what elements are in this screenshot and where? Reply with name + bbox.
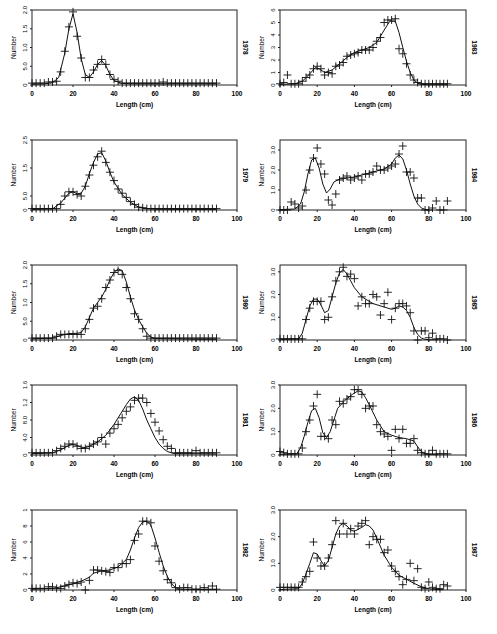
plot-frame (280, 510, 466, 590)
x-tick-label: 60 (388, 595, 396, 602)
x-axis-label: Length (cm) (354, 606, 391, 614)
cross-marker (440, 581, 448, 589)
cross-marker (313, 554, 321, 562)
y-tick-label: 0 (270, 588, 276, 592)
x-tick-label: 20 (314, 595, 322, 602)
cross-marker (406, 559, 414, 567)
x-tick-label: 80 (425, 595, 433, 602)
cross-marker (399, 581, 407, 589)
y-tick-label: 2.0 (270, 532, 276, 541)
cross-marker (410, 577, 418, 585)
y-tick-label: 3.0 (270, 505, 276, 514)
year-label: 1987 (471, 543, 478, 558)
cross-marker (414, 565, 422, 573)
cross-marker (302, 573, 310, 581)
cross-marker (309, 538, 317, 546)
fitted-curve (280, 523, 444, 589)
cross-marker (328, 541, 336, 549)
cross-marker (421, 585, 429, 593)
x-tick-label: 0 (278, 595, 282, 602)
cross-marker (376, 535, 384, 543)
observed-markers (276, 517, 451, 593)
x-tick-label: 40 (351, 595, 359, 602)
cross-marker (365, 541, 373, 549)
cross-marker (321, 562, 329, 570)
cross-marker (343, 530, 351, 538)
cross-marker (436, 585, 444, 593)
x-tick-label: 100 (461, 595, 472, 602)
y-tick-label: 1.0 (270, 559, 276, 568)
y-axis-label: Number (258, 538, 265, 562)
cross-marker (443, 582, 451, 590)
cross-marker (298, 578, 306, 586)
cross-marker (324, 554, 332, 562)
cross-marker (402, 575, 410, 583)
cross-marker (350, 530, 358, 538)
cross-marker (425, 578, 433, 586)
cross-marker (339, 519, 347, 527)
chart-svg-1987: 02040608010001.02.03.0Number1987Length (… (0, 0, 497, 634)
cross-marker (395, 573, 403, 581)
cross-marker (306, 567, 314, 575)
cross-marker (332, 517, 340, 525)
